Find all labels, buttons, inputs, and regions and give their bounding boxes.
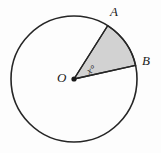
center-point-dot [71,76,76,81]
geometry-canvas [0,0,161,153]
label-point-a: A [110,5,118,18]
label-point-b: B [142,54,150,67]
label-center-o: O [57,71,66,84]
shaded-sector-aob [74,26,136,79]
circle-sector-figure: O A B x° [0,0,161,153]
